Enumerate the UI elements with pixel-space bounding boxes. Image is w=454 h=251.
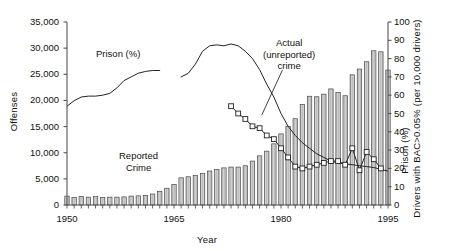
bar — [129, 196, 133, 205]
bac-marker — [371, 157, 376, 162]
annotation-actual-unreported-crime: Actual (unreported) crime — [263, 37, 315, 72]
bac-marker — [293, 164, 298, 169]
bac-marker — [343, 162, 348, 167]
bar — [272, 144, 276, 205]
bar — [200, 174, 204, 205]
bar — [72, 197, 76, 205]
y-tick-label-left: 35,000 — [13, 16, 59, 27]
y-tick-label-right: 100 — [394, 16, 424, 27]
bar — [329, 89, 333, 205]
bac-marker — [364, 150, 369, 155]
bar — [257, 156, 261, 205]
x-tick-label: 1950 — [49, 213, 85, 224]
bar — [336, 93, 340, 205]
y-tick-label-left: 30,000 — [13, 42, 59, 53]
y-tick-label-right: 50 — [394, 108, 424, 119]
bar — [193, 175, 197, 205]
bar — [179, 178, 183, 205]
bac-marker — [307, 164, 312, 169]
bac-marker — [378, 166, 383, 171]
bar — [229, 167, 233, 205]
y-tick-label-left: 20,000 — [13, 94, 59, 105]
bar — [158, 191, 162, 205]
bar — [186, 177, 190, 205]
x-axis-title: Year — [197, 234, 217, 245]
bar — [93, 197, 97, 205]
bar — [322, 94, 326, 205]
bac-marker — [321, 161, 326, 166]
bar — [79, 196, 83, 205]
annotation-actual-line2: (unreported) — [263, 49, 315, 61]
annotation-reported-crime: Reported Crime — [119, 150, 158, 173]
annotation-reported-line2: Crime — [119, 162, 158, 174]
bar — [172, 185, 176, 205]
annotation-actual-line3: crime — [263, 60, 315, 72]
bar-series-reported-crime — [65, 51, 390, 205]
bar — [357, 69, 361, 205]
bar — [307, 96, 311, 205]
annotation-leader-line — [262, 70, 283, 115]
bar — [150, 194, 154, 205]
bac-marker — [329, 159, 334, 164]
annotation-prison: Prison (%) — [96, 48, 140, 60]
y-tick-label-left: 15,000 — [13, 121, 59, 132]
y-tick-label-left: 10,000 — [13, 147, 59, 158]
bac-marker — [264, 133, 269, 138]
bar — [215, 169, 219, 205]
x-tick-label: 1980 — [263, 213, 299, 224]
bac-marker — [243, 117, 248, 122]
bar — [236, 167, 240, 205]
bar — [122, 197, 126, 205]
y-tick-label-right: 30 — [394, 144, 424, 155]
bar — [136, 196, 140, 205]
y-tick-label-right: 40 — [394, 126, 424, 137]
bar — [343, 96, 347, 205]
bac-marker — [257, 126, 262, 131]
y-tick-label-right: 10 — [394, 181, 424, 192]
x-tick-label: 1965 — [156, 213, 192, 224]
bar — [207, 171, 211, 205]
bac-marker — [314, 162, 319, 167]
y-tick-label-left: 25,000 — [13, 68, 59, 79]
bac-marker — [279, 146, 284, 151]
bar — [286, 127, 290, 205]
bar — [243, 166, 247, 205]
bar — [300, 105, 304, 205]
bar — [314, 97, 318, 205]
chart-figure: Offenses Prison (%) Drivers with BAC>0.0… — [0, 0, 454, 251]
y-tick-label-left: 5,000 — [13, 173, 59, 184]
bar — [100, 197, 104, 205]
bar — [222, 168, 226, 205]
bac-marker — [300, 166, 305, 171]
bar — [165, 188, 169, 205]
bar — [86, 197, 90, 205]
bar — [350, 75, 354, 205]
bar — [293, 119, 297, 205]
y-tick-label-right: 0 — [394, 199, 424, 210]
annotation-reported-line1: Reported — [119, 150, 158, 162]
y-tick-label-right: 60 — [394, 89, 424, 100]
bar — [279, 134, 283, 205]
bar — [379, 52, 383, 205]
leader-line — [262, 70, 283, 115]
y-tick-label-right: 20 — [394, 162, 424, 173]
prison-line-segment — [67, 71, 160, 107]
y-tick-label-right: 70 — [394, 71, 424, 82]
y-axis-left-title: Offenses — [8, 77, 19, 147]
bac-marker — [250, 124, 255, 129]
bar — [115, 197, 119, 205]
bar — [372, 51, 376, 205]
bar — [108, 197, 112, 205]
annotation-actual-line1: Actual — [263, 37, 315, 49]
bac-marker — [236, 111, 241, 116]
bar — [265, 151, 269, 205]
y-tick-label-right: 80 — [394, 53, 424, 64]
bac-marker — [357, 168, 362, 173]
bac-marker — [286, 155, 291, 160]
y-tick-label-left: 0 — [13, 199, 59, 210]
bar — [364, 62, 368, 205]
y-tick-label-right: 90 — [394, 34, 424, 45]
bar — [143, 196, 147, 205]
bac-marker — [350, 146, 355, 151]
bac-marker — [336, 159, 341, 164]
